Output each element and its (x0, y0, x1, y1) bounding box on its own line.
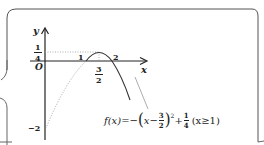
constant-fraction: 1 4 (184, 112, 189, 129)
inner-fraction: 3 2 (159, 112, 164, 129)
y-tick-quarter: 1 4 (34, 43, 42, 62)
function-formula: f(x) =− ( x− 3 2 ) 2 + 1 4 (x≥1) (104, 112, 220, 129)
x-tick-three-halves: 3 2 (95, 65, 103, 84)
parabola-dotted (46, 61, 86, 128)
x-tick-two: 2 (113, 53, 119, 61)
left-bracket-top (1, 60, 7, 80)
y-tick-minus-two: −2 (28, 124, 40, 132)
left-bracket-bottom (0, 98, 7, 145)
x-axis-label: x (141, 65, 147, 75)
origin-label: O (35, 63, 43, 72)
right-tick (258, 141, 264, 142)
y-axis-label: y (33, 26, 39, 36)
parabola-solid (86, 53, 130, 101)
x-tick-one: 1 (78, 53, 84, 61)
formula-pointer (135, 77, 148, 109)
